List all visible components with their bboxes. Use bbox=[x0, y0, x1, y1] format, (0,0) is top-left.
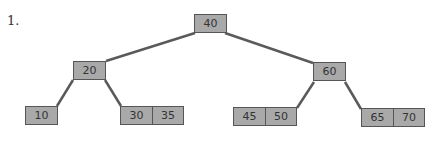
node-key: 30 bbox=[121, 107, 152, 124]
node-key: 10 bbox=[26, 107, 57, 124]
node-key: 35 bbox=[152, 107, 183, 124]
node-key: 70 bbox=[393, 109, 424, 126]
edge-right-leaf3 bbox=[297, 82, 314, 108]
tree-node-leaf1: 10 bbox=[25, 106, 58, 125]
node-key: 65 bbox=[362, 109, 393, 126]
node-key: 20 bbox=[74, 62, 105, 79]
node-key: 40 bbox=[195, 15, 226, 32]
node-key: 60 bbox=[314, 63, 345, 80]
node-key: 45 bbox=[234, 108, 265, 125]
tree-node-root: 40 bbox=[194, 14, 227, 33]
edge-right-leaf4 bbox=[345, 82, 361, 109]
edge-left-leaf1 bbox=[57, 80, 73, 106]
tree-node-leaf4: 65 70 bbox=[361, 108, 425, 127]
tree-node-left: 20 bbox=[73, 61, 106, 80]
edge-root-right bbox=[225, 33, 313, 63]
edge-root-left bbox=[106, 33, 195, 61]
tree-node-leaf3: 45 50 bbox=[233, 107, 297, 126]
tree-node-leaf2: 30 35 bbox=[120, 106, 184, 125]
edge-left-leaf2 bbox=[105, 80, 121, 106]
node-key: 50 bbox=[265, 108, 296, 125]
tree-node-right: 60 bbox=[313, 62, 346, 81]
